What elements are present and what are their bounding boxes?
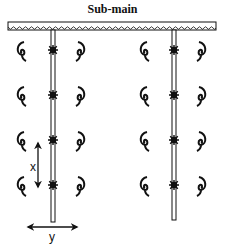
lateral-right xyxy=(172,30,176,220)
plants xyxy=(18,42,206,196)
x-spacing-label: x xyxy=(30,160,36,174)
lateral-left xyxy=(51,30,55,222)
submain-pipe xyxy=(8,22,216,30)
drip-layout-diagram: Sub-main xyxy=(0,0,225,252)
emitters xyxy=(48,45,179,190)
y-spacing-label: y xyxy=(49,230,55,244)
